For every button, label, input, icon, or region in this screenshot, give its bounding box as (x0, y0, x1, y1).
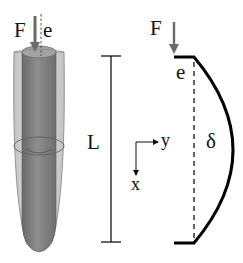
label-force-right: F (150, 18, 162, 39)
deflected-column (174, 57, 233, 243)
label-eccentricity-left: e (43, 20, 52, 41)
axes-xy (136, 142, 158, 175)
label-axis-y: y (161, 131, 170, 149)
label-force-left: F (14, 20, 26, 41)
column-3d (14, 14, 65, 252)
column-rod (22, 52, 56, 252)
label-eccentricity-right: e (176, 62, 185, 83)
column-top-face (22, 46, 56, 58)
label-deflection: δ (206, 131, 216, 152)
diagram-canvas: F e F e L δ y x (0, 0, 243, 263)
label-axis-x: x (131, 175, 140, 193)
label-length: L (87, 132, 100, 153)
length-dimension (101, 56, 121, 242)
force-arrow-right (169, 22, 179, 54)
